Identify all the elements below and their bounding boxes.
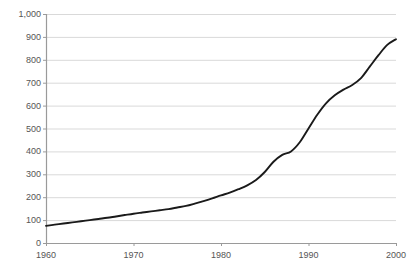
x-axis-label-1990: 1990 bbox=[289, 251, 329, 260]
y-axis-label-800: 800 bbox=[1, 56, 41, 65]
x-axis-label-2000: 2000 bbox=[376, 251, 409, 260]
y-axis-label-500: 500 bbox=[1, 125, 41, 134]
y-axis-label-200: 200 bbox=[1, 193, 41, 202]
x-axis-label-1960: 1960 bbox=[26, 251, 66, 260]
y-axis-label-900: 900 bbox=[1, 33, 41, 42]
y-axis-label-700: 700 bbox=[1, 79, 41, 88]
gridlines bbox=[46, 15, 396, 221]
y-tick-marks bbox=[43, 15, 46, 244]
x-axis-label-1970: 1970 bbox=[114, 251, 154, 260]
line-chart: 01002003004005006007008009001,000 196019… bbox=[0, 0, 409, 278]
y-axis-label-0: 0 bbox=[1, 239, 41, 248]
x-axis-label-1980: 1980 bbox=[201, 251, 241, 260]
y-axis-label-600: 600 bbox=[1, 102, 41, 111]
y-axis-label-400: 400 bbox=[1, 147, 41, 156]
y-axis-label-100: 100 bbox=[1, 216, 41, 225]
plot-svg bbox=[0, 0, 409, 278]
y-axis-label-1000: 1,000 bbox=[1, 10, 41, 19]
plot-area: 01002003004005006007008009001,000 196019… bbox=[0, 0, 409, 278]
y-axis-label-300: 300 bbox=[1, 170, 41, 179]
